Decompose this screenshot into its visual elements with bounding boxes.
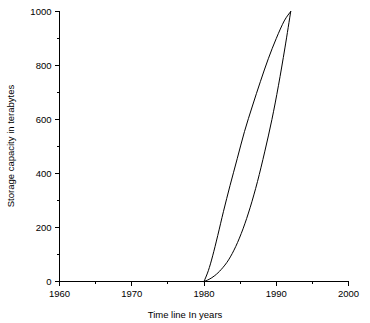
x-tick-label-1980: 1980 [193,288,214,299]
y-axis-tick-labels: 02004006008001000 [30,6,51,287]
data-series-group [204,12,291,282]
axes-group [55,12,349,287]
y-axis-title: Storage capacity in terabytes [5,84,16,207]
y-tick-label-800: 800 [36,60,52,71]
series-line-lower-right-curve [204,12,291,282]
y-tick-label-1000: 1000 [30,6,51,17]
x-axis-major-ticks [60,282,349,287]
x-tick-label-1970: 1970 [121,288,142,299]
line-chart: 19601970198019902000 02004006008001000 T… [0,0,370,323]
y-tick-label-600: 600 [36,114,52,125]
chart-container: 19601970198019902000 02004006008001000 T… [0,0,370,323]
y-tick-label-400: 400 [36,168,52,179]
y-tick-label-200: 200 [36,222,52,233]
x-tick-label-1990: 1990 [266,288,287,299]
series-line-upper-left-curve [204,12,291,282]
x-axis-tick-labels: 19601970198019902000 [49,288,359,299]
axis-lines [60,12,349,282]
x-axis-title: Time line In years [148,309,223,320]
x-tick-label-2000: 2000 [338,288,359,299]
y-tick-label-0: 0 [46,276,51,287]
x-tick-label-1960: 1960 [49,288,70,299]
